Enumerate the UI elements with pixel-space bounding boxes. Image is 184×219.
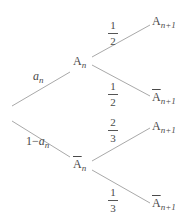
prob-notAn-to-notAn1: 1 3 bbox=[107, 187, 119, 214]
edge-label-1-minus-an: 1−an bbox=[26, 135, 49, 147]
edge-label-subscript: n bbox=[45, 140, 50, 150]
edge-notAn-to-notAn1 bbox=[92, 170, 150, 203]
node-notAn: An bbox=[73, 158, 86, 170]
node-An1-lower: An+1 bbox=[152, 120, 176, 132]
fraction-numerator: 1 bbox=[110, 81, 116, 94]
fraction-denominator: 3 bbox=[110, 131, 116, 144]
fraction-numerator: 2 bbox=[110, 117, 116, 130]
node-letter: A bbox=[152, 119, 161, 133]
edge-label-subscript: n bbox=[39, 75, 44, 85]
fraction-denominator: 2 bbox=[110, 34, 116, 47]
node-subscript: n+1 bbox=[161, 20, 176, 30]
edge-notAn-to-An1 bbox=[92, 128, 150, 161]
prob-notAn-to-An1: 2 3 bbox=[107, 117, 119, 144]
node-subscript: n+1 bbox=[161, 125, 176, 135]
node-subscript: n+1 bbox=[161, 202, 176, 212]
fraction-numerator: 1 bbox=[110, 20, 116, 33]
prob-An-to-An1: 1 2 bbox=[107, 20, 119, 47]
node-letter: A bbox=[152, 14, 161, 28]
node-letter: A bbox=[73, 157, 82, 171]
node-letter: A bbox=[152, 196, 161, 210]
edge-An-to-An1 bbox=[92, 25, 150, 57]
node-letter: A bbox=[152, 90, 161, 104]
fraction-numerator: 1 bbox=[110, 187, 116, 200]
edge-An-to-notAn1 bbox=[92, 65, 150, 96]
edge-label-an: an bbox=[33, 70, 44, 82]
node-letter: A bbox=[73, 54, 82, 68]
node-subscript: n bbox=[82, 60, 87, 70]
fraction-denominator: 3 bbox=[110, 201, 116, 214]
fraction-denominator: 2 bbox=[110, 95, 116, 108]
node-subscript: n+1 bbox=[161, 96, 176, 106]
edge-label-prefix: 1− bbox=[26, 134, 39, 148]
node-notAn1-bottom: An+1 bbox=[152, 197, 176, 209]
node-notAn1-upper: An+1 bbox=[152, 91, 176, 103]
node-An1-top: An+1 bbox=[152, 15, 176, 27]
tree-edges bbox=[0, 0, 184, 219]
node-An: An bbox=[73, 55, 86, 67]
prob-An-to-notAn1: 1 2 bbox=[107, 81, 119, 108]
node-subscript: n bbox=[82, 163, 87, 173]
